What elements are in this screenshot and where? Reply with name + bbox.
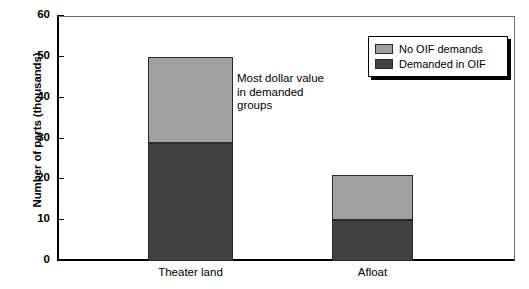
legend-item: No OIF demands (375, 42, 501, 56)
y-tick-mark (57, 15, 64, 16)
x-axis-label: Theater land (131, 266, 251, 278)
legend-label: Demanded in OIF (399, 58, 486, 70)
legend-swatch-icon (375, 59, 393, 69)
legend-swatch-icon (375, 44, 393, 54)
y-tick-mark (57, 260, 64, 261)
bar-segment-demanded-in-oif (148, 143, 233, 261)
bar-segment-no-oif-demands (332, 175, 413, 220)
annotation-line-1: Most dollar value (237, 72, 362, 86)
stacked-bar-chart: Number of parts (thousands) 605040302010… (0, 0, 529, 289)
y-tick-label: 30 (0, 131, 50, 143)
bar-segment-no-oif-demands (148, 57, 233, 143)
y-tick-mark (57, 138, 64, 139)
annotation-line-3: groups (237, 99, 362, 113)
y-tick-label: 60 (0, 8, 50, 20)
y-tick-mark (57, 219, 64, 220)
legend-label: No OIF demands (399, 43, 483, 55)
bar-segment-demanded-in-oif (332, 220, 413, 261)
y-tick-label: 40 (0, 90, 50, 102)
legend-item: Demanded in OIF (375, 57, 501, 71)
y-tick-mark (57, 56, 64, 57)
chart-annotation: Most dollar value in demanded groups (237, 72, 362, 113)
y-tick-label: 20 (0, 171, 50, 183)
bar-afloat (332, 175, 413, 261)
bar-theater-land (148, 57, 233, 261)
x-axis-label: Afloat (313, 266, 433, 278)
chart-legend: No OIF demandsDemanded in OIF (368, 36, 508, 77)
annotation-line-2: in demanded (237, 86, 362, 100)
y-tick-mark (57, 97, 64, 98)
y-tick-label: 0 (0, 253, 50, 265)
y-tick-mark (57, 178, 64, 179)
y-tick-label: 10 (0, 212, 50, 224)
y-tick-label: 50 (0, 49, 50, 61)
